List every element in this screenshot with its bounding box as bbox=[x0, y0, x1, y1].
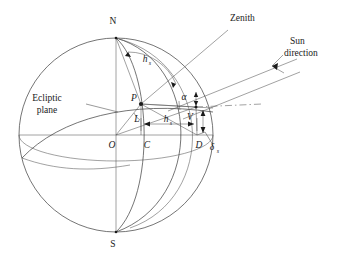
label-hour-angle-arc-subscript: s bbox=[149, 60, 152, 66]
label-sun-direction-line1: Sun bbox=[290, 36, 305, 46]
label-point-c: C bbox=[144, 140, 151, 150]
diagram-canvas: N S O C D P L V h s h s δ s α Zenith Sun… bbox=[0, 0, 337, 255]
label-origin: O bbox=[109, 140, 116, 150]
declination-band-arc bbox=[119, 39, 192, 228]
base-dim-arrow-left bbox=[144, 122, 150, 127]
line-n-to-p bbox=[116, 38, 141, 104]
label-hour-angle-arc: h bbox=[143, 54, 148, 64]
label-north-pole: N bbox=[110, 16, 117, 26]
label-point-v: V bbox=[187, 112, 194, 122]
label-zenith: Zenith bbox=[230, 13, 255, 23]
label-point-l: L bbox=[133, 114, 139, 124]
label-ecliptic-line2: plane bbox=[37, 105, 58, 115]
label-declination: δ bbox=[210, 142, 215, 152]
sun-ray-upper bbox=[168, 59, 297, 111]
label-hour-angle-base-subscript: s bbox=[170, 120, 173, 126]
line-o-to-v bbox=[116, 107, 196, 135]
hour-angle-arrow-start bbox=[125, 52, 131, 57]
line-d-to-delta bbox=[197, 132, 205, 135]
sun-horizontal-reference-dashed bbox=[196, 104, 262, 107]
label-south-pole: S bbox=[110, 239, 115, 249]
base-dim-arrow-right bbox=[188, 122, 194, 127]
alpha-arrow-bottom bbox=[194, 101, 198, 106]
label-ecliptic-line1: Ecliptic bbox=[32, 93, 62, 103]
point-marker-v bbox=[195, 106, 198, 109]
label-hour-angle-base: h bbox=[164, 114, 169, 124]
alpha-arrow-top bbox=[194, 92, 198, 97]
sun-ray-lower bbox=[183, 72, 300, 119]
celestial-sphere-diagram: N S O C D P L V h s h s δ s α Zenith Sun… bbox=[0, 0, 337, 255]
point-marker-s bbox=[115, 231, 118, 234]
sun-angle-bracket bbox=[272, 55, 284, 73]
label-point-p: P bbox=[130, 93, 137, 103]
point-marker-p bbox=[139, 102, 143, 106]
point-marker-n bbox=[115, 37, 118, 40]
ecliptic-plane-arc-lower bbox=[22, 158, 130, 169]
ecliptic-leader bbox=[86, 104, 118, 112]
label-point-d: D bbox=[195, 140, 203, 150]
label-sun-direction-line2: direction bbox=[284, 48, 318, 58]
label-declination-subscript: s bbox=[217, 148, 220, 154]
hour-angle-arc-marker bbox=[128, 52, 176, 84]
